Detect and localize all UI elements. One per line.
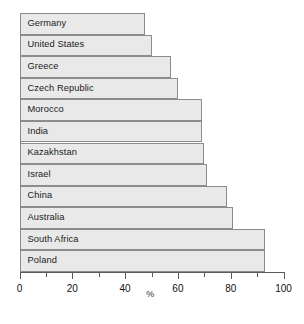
bar-row: Czech Republic <box>20 78 284 100</box>
x-axis-tick-label: 100 <box>275 284 292 294</box>
bar-row: India <box>20 121 284 143</box>
x-axis-major-tick <box>284 272 285 279</box>
bar: Morocco <box>20 99 202 121</box>
x-axis-tick-label: 80 <box>225 284 236 294</box>
bar: Australia <box>20 207 234 229</box>
bar-category-label: Greece <box>28 62 59 71</box>
bar-row: South Africa <box>20 229 284 251</box>
x-axis-tick-label: 60 <box>172 284 183 294</box>
x-axis-minor-tick <box>257 272 258 277</box>
x-axis-major-tick <box>178 272 179 279</box>
x-axis-minor-tick <box>99 272 100 277</box>
bar-row: Greece <box>20 56 284 78</box>
bar: South Africa <box>20 229 266 251</box>
bar: China <box>20 186 227 208</box>
bar: Czech Republic <box>20 78 178 100</box>
x-axis-major-tick <box>72 272 73 279</box>
bar-category-label: Czech Republic <box>28 84 94 93</box>
x-axis-major-tick <box>125 272 126 279</box>
bar-category-label: Israel <box>28 170 51 179</box>
plot-area: GermanyUnited StatesGreeceCzech Republic… <box>20 13 284 272</box>
bar-category-label: Australia <box>28 213 65 222</box>
bar: Germany <box>20 13 145 35</box>
bar-category-label: Poland <box>28 257 57 266</box>
bar-row: Morocco <box>20 99 284 121</box>
bar: India <box>20 121 202 143</box>
bar: Greece <box>20 56 172 78</box>
bar-category-label: India <box>28 127 49 136</box>
bar: Israel <box>20 164 207 186</box>
bar-row: Australia <box>20 207 284 229</box>
bar-row: China <box>20 186 284 208</box>
x-axis-minor-tick <box>46 272 47 277</box>
bar-category-label: China <box>28 192 53 201</box>
x-axis-minor-tick <box>152 272 153 277</box>
bar-category-label: South Africa <box>28 235 79 244</box>
x-axis-major-tick <box>20 272 21 279</box>
bar-row: United States <box>20 35 284 57</box>
x-axis-tick-label: 40 <box>120 284 131 294</box>
bar-row: Poland <box>20 250 284 272</box>
bar-category-label: Kazakhstan <box>28 149 77 158</box>
bar-row: Israel <box>20 164 284 186</box>
x-axis-title: % <box>146 290 154 299</box>
x-axis-minor-tick <box>204 272 205 277</box>
bar: United States <box>20 35 152 57</box>
bar: Kazakhstan <box>20 143 205 165</box>
bar-category-label: United States <box>28 41 85 50</box>
bar-category-label: Morocco <box>28 105 64 114</box>
bar-row: Germany <box>20 13 284 35</box>
x-axis-major-tick <box>231 272 232 279</box>
bar-row: Kazakhstan <box>20 143 284 165</box>
bar-category-label: Germany <box>28 19 67 28</box>
x-axis-tick-label: 20 <box>67 284 78 294</box>
bar-chart: GermanyUnited StatesGreeceCzech Republic… <box>0 0 304 324</box>
x-axis-tick-label: 0 <box>17 284 23 294</box>
bar: Poland <box>20 250 266 272</box>
